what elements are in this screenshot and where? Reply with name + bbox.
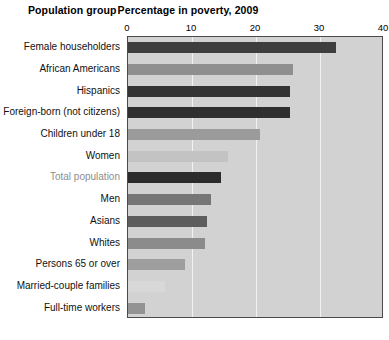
bar-row xyxy=(128,124,382,146)
bar-row xyxy=(128,189,382,211)
x-tick-label: 40 xyxy=(378,22,389,33)
category-label: Female householders xyxy=(24,36,120,58)
plot-area xyxy=(127,36,383,318)
category-label: Children under 18 xyxy=(41,123,121,145)
category-label: Women xyxy=(86,144,120,166)
bar xyxy=(128,129,260,140)
bar-row xyxy=(128,145,382,167)
category-label: Whites xyxy=(89,231,120,253)
chart-headers: Population group Percentage in poverty, … xyxy=(0,0,389,22)
category-label: Married-couple families xyxy=(17,275,120,297)
category-labels: Female householdersAfrican AmericansHisp… xyxy=(0,36,124,318)
x-tick-label: 0 xyxy=(124,22,129,33)
bar-row xyxy=(128,102,382,124)
bar xyxy=(128,194,211,205)
category-label: Men xyxy=(101,188,120,210)
bar-row xyxy=(128,254,382,276)
poverty-bar-chart: Population group Percentage in poverty, … xyxy=(0,0,389,340)
bar xyxy=(128,151,228,162)
bar-row xyxy=(128,37,382,59)
bar xyxy=(128,86,290,97)
bar xyxy=(128,281,165,292)
bar-row xyxy=(128,276,382,298)
bar-row xyxy=(128,232,382,254)
x-tick-label: 20 xyxy=(250,22,261,33)
category-label: Total population xyxy=(50,166,120,188)
category-label: Asians xyxy=(90,210,120,232)
bar xyxy=(128,107,290,118)
chart-title: Percentage in poverty, 2009 xyxy=(118,4,259,16)
population-group-header: Population group xyxy=(28,4,117,16)
bar xyxy=(128,64,293,75)
category-label: African Americans xyxy=(39,58,120,80)
bars-layer xyxy=(128,37,382,317)
bar xyxy=(128,42,336,53)
bar-row xyxy=(128,80,382,102)
bar xyxy=(128,259,185,270)
category-label: Foreign-born (not citizens) xyxy=(3,101,120,123)
bar xyxy=(128,238,205,249)
bar-row xyxy=(128,167,382,189)
x-tick-label: 30 xyxy=(314,22,325,33)
category-label: Full-time workers xyxy=(44,296,120,318)
category-label: Hispanics xyxy=(77,79,120,101)
bar-row xyxy=(128,59,382,81)
bar xyxy=(128,303,145,314)
bar-row xyxy=(128,211,382,233)
bar xyxy=(128,172,221,183)
x-axis-ticks: 010203040 xyxy=(127,22,383,36)
bar xyxy=(128,216,207,227)
category-label: Persons 65 or over xyxy=(36,253,121,275)
x-tick-label: 10 xyxy=(186,22,197,33)
bar-row xyxy=(128,297,382,318)
